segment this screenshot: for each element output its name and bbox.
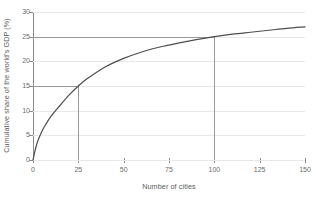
- y-tick-label-10: 10: [8, 107, 30, 115]
- y-tick-label-20: 20: [8, 57, 30, 65]
- plot-area: [33, 12, 305, 160]
- x-tick-label-0: 0: [18, 166, 48, 173]
- x-tick-label-125: 125: [245, 166, 275, 173]
- x-tick-mark-150: [305, 158, 306, 163]
- x-tick-label-25: 25: [63, 166, 93, 173]
- x-tick-label-100: 100: [199, 166, 229, 173]
- chart-container: Cumulative share of the world's GDP (%) …: [0, 0, 316, 201]
- x-tick-label-50: 50: [109, 166, 139, 173]
- y-tick-label-5: 5: [8, 131, 30, 139]
- y-tick-label-25: 25: [8, 33, 30, 41]
- y-tick-label-15: 15: [8, 82, 30, 90]
- x-tick-label-75: 75: [154, 166, 184, 173]
- gridline-y-0: [33, 160, 305, 161]
- y-tick-label-30: 30: [8, 8, 30, 16]
- curve-path: [33, 27, 305, 160]
- x-axis-title: Number of cities: [33, 182, 305, 191]
- x-tick-label-150: 150: [290, 166, 316, 173]
- gdp-share-curve: [33, 12, 305, 160]
- y-tick-label-0: 0: [8, 156, 30, 164]
